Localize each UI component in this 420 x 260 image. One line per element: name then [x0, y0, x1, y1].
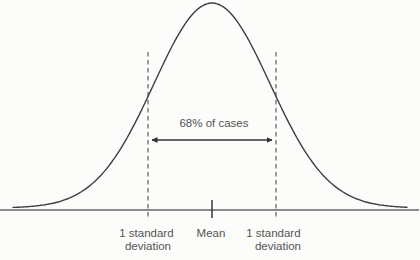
bell-curve-diagram: 68% of cases 1 standard deviation Mean 1… [0, 0, 420, 260]
right-sd-label-line2: deviation [255, 240, 301, 252]
normal-distribution-figure: 68% of cases 1 standard deviation Mean 1… [0, 0, 420, 260]
left-sd-label-line2: deviation [125, 240, 171, 252]
left-sd-label: 1 standard deviation [119, 227, 177, 252]
mean-label: Mean [197, 227, 226, 239]
cases-annotation: 68% of cases [179, 117, 248, 129]
right-sd-label-line1: 1 standard [246, 227, 300, 239]
right-sd-label: 1 standard deviation [246, 227, 304, 252]
bell-curve [13, 3, 407, 207]
left-sd-label-line1: 1 standard [119, 227, 173, 239]
